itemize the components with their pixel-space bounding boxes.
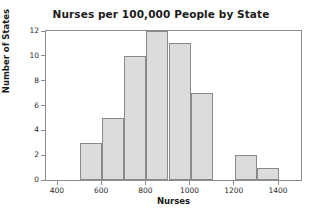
x-axis-title: Nurses bbox=[45, 196, 302, 206]
y-tick-label: 0 bbox=[34, 175, 39, 184]
y-tick-label: 12 bbox=[29, 26, 39, 35]
x-tick-label: 1200 bbox=[214, 186, 254, 195]
histogram-chart: Nurses per 100,000 People by State Numbe… bbox=[0, 0, 322, 217]
bars-layer bbox=[46, 31, 301, 180]
x-tick-mark bbox=[101, 181, 102, 185]
x-tick-mark bbox=[233, 181, 234, 185]
histogram-bar bbox=[191, 93, 213, 180]
x-tick-label: 600 bbox=[81, 186, 121, 195]
histogram-bar bbox=[80, 143, 102, 180]
y-tick-label: 4 bbox=[34, 125, 39, 134]
y-tick-label: 6 bbox=[34, 101, 39, 110]
x-tick-label: 1400 bbox=[258, 186, 298, 195]
y-axis-title: Number of States bbox=[1, 0, 11, 111]
x-tick-mark bbox=[189, 181, 190, 185]
histogram-bar bbox=[102, 118, 124, 180]
histogram-bar bbox=[124, 56, 146, 180]
y-tick-label: 8 bbox=[34, 76, 39, 85]
x-tick-mark bbox=[57, 181, 58, 185]
histogram-bar bbox=[257, 168, 279, 180]
y-tick-label: 10 bbox=[29, 51, 39, 60]
y-tick-label: 2 bbox=[34, 150, 39, 159]
x-tick-mark bbox=[145, 181, 146, 185]
histogram-bar bbox=[235, 155, 257, 180]
x-tick-mark bbox=[278, 181, 279, 185]
x-tick-label: 400 bbox=[37, 186, 77, 195]
chart-title: Nurses per 100,000 People by State bbox=[0, 8, 322, 20]
x-tick-label: 800 bbox=[125, 186, 165, 195]
histogram-bar bbox=[169, 43, 191, 180]
plot-area bbox=[45, 30, 302, 181]
histogram-bar bbox=[146, 31, 168, 180]
x-tick-label: 1000 bbox=[170, 186, 210, 195]
